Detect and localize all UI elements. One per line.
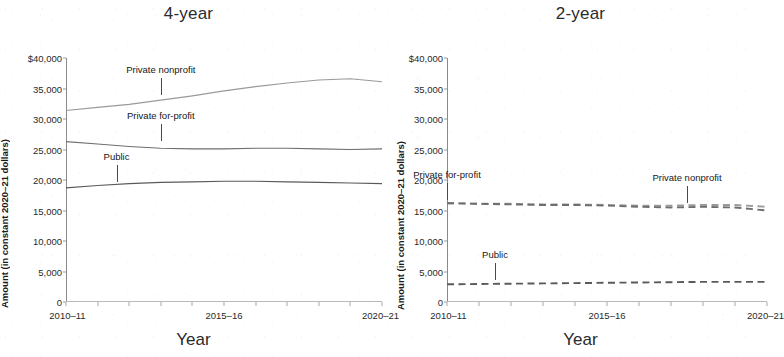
y-tick-mark: [63, 119, 66, 120]
y-tick-label: 35,000: [33, 83, 62, 94]
x-tick-mark: [129, 302, 130, 306]
annotation-label: Private nonprofit: [126, 64, 195, 75]
y-tick-mark: [63, 271, 66, 272]
y-tick-mark: [63, 210, 66, 211]
y-tick-label: 30,000: [33, 114, 62, 125]
annotation-label: Public: [482, 249, 508, 260]
series-line-public: [447, 282, 767, 284]
x-tick-label: 2010–11: [430, 310, 466, 321]
annotation-leader-line: [687, 186, 688, 203]
annotation-label: Private for-profit: [413, 169, 481, 180]
y-tick-mark: [444, 58, 447, 59]
series-line-private-for-profit: [66, 142, 382, 150]
annotation-leader-line: [117, 165, 118, 182]
x-tick-mark: [160, 302, 161, 306]
y-tick-mark: [63, 88, 66, 89]
y-tick-label: $40,000: [409, 53, 443, 64]
y-tick-mark: [444, 149, 447, 150]
x-tick-mark: [543, 302, 544, 306]
plot-area-two-year: $40,00035,00030,00025,00020,00015,00010,…: [447, 58, 767, 302]
x-tick-mark: [767, 302, 768, 306]
y-tick-label: 25,000: [414, 144, 443, 155]
x-tick-mark: [575, 302, 576, 306]
y-tick-label: 0: [57, 297, 62, 308]
annotation-label: Private nonprofit: [652, 172, 721, 183]
y-tick-label: 15,000: [414, 205, 443, 216]
y-tick-mark: [444, 88, 447, 89]
annotation-leader-line: [161, 78, 162, 95]
series-lines-four-year: [66, 58, 382, 302]
y-tick-label: 30,000: [414, 114, 443, 125]
y-axis-label-two-year: Amount (in constant 2020–21 dollars): [395, 78, 406, 310]
x-tick-mark: [287, 302, 288, 306]
y-tick-mark: [444, 271, 447, 272]
y-tick-label: 5,000: [419, 266, 443, 277]
series-line-private-for-profit: [447, 203, 767, 210]
y-tick-label: 25,000: [33, 144, 62, 155]
y-tick-label: 10,000: [33, 236, 62, 247]
x-tick-mark: [66, 302, 67, 306]
x-tick-label: 2020–21: [747, 310, 784, 321]
panel-two-year: 2-year Amount (in constant 2020–21 dolla…: [387, 0, 774, 357]
y-tick-label: 20,000: [33, 175, 62, 186]
x-tick-mark: [703, 302, 704, 306]
x-tick-mark: [224, 302, 225, 306]
x-tick-label: 2010–11: [49, 310, 85, 321]
x-tick-mark: [192, 302, 193, 306]
x-tick-mark: [639, 302, 640, 306]
y-tick-mark: [444, 210, 447, 211]
series-line-public: [66, 181, 382, 188]
y-tick-mark: [63, 58, 66, 59]
x-axis-label-two-year: Year: [387, 330, 774, 350]
panel-title-two-year: 2-year: [387, 4, 774, 24]
plot-area-four-year: $40,00035,00030,00025,00020,00015,00010,…: [66, 58, 382, 302]
x-tick-mark: [447, 302, 448, 306]
annotation-leader-line: [447, 183, 448, 200]
x-tick-mark: [671, 302, 672, 306]
y-tick-label: 15,000: [33, 205, 62, 216]
x-tick-mark: [479, 302, 480, 306]
x-tick-label: 2015–16: [206, 310, 243, 321]
y-tick-mark: [444, 241, 447, 242]
x-tick-mark: [607, 302, 608, 306]
y-tick-mark: [63, 180, 66, 181]
x-tick-label: 2015–16: [589, 310, 626, 321]
annotation-label: Public: [104, 151, 130, 162]
x-tick-mark: [511, 302, 512, 306]
y-tick-label: 10,000: [414, 236, 443, 247]
y-tick-label: 0: [438, 297, 443, 308]
annotation-leader-line: [161, 124, 162, 141]
y-tick-label: 5,000: [38, 266, 62, 277]
x-tick-mark: [255, 302, 256, 306]
annotation-label: Private for-profit: [127, 110, 195, 121]
x-tick-mark: [350, 302, 351, 306]
y-axis-label-four-year: Amount (in constant 2020–21 dollars): [0, 86, 10, 308]
y-tick-mark: [63, 149, 66, 150]
panel-title-four-year: 4-year: [0, 4, 387, 24]
x-axis-label-four-year: Year: [0, 330, 387, 350]
x-tick-mark: [735, 302, 736, 306]
x-tick-mark: [382, 302, 383, 306]
x-tick-mark: [318, 302, 319, 306]
y-tick-label: 35,000: [414, 83, 443, 94]
x-tick-mark: [97, 302, 98, 306]
series-line-private-nonprofit: [66, 79, 382, 111]
y-tick-label: $40,000: [28, 53, 62, 64]
y-tick-mark: [444, 119, 447, 120]
panel-four-year: 4-year Amount (in constant 2020–21 dolla…: [0, 0, 387, 357]
annotation-leader-line: [495, 263, 496, 280]
y-tick-mark: [63, 241, 66, 242]
